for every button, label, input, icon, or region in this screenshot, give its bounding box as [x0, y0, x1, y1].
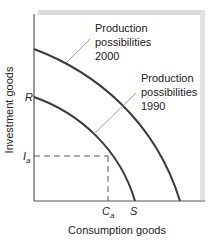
label-1990: Production possibilities 1990: [141, 72, 200, 112]
frame-top: [38, 10, 205, 15]
label-Ca: Ca: [102, 205, 115, 220]
label-2000: Production possibilities 2000: [95, 22, 154, 62]
label-S: S: [130, 205, 138, 217]
ppf-diagram: Production possibilities 2000 Production…: [0, 0, 210, 242]
y-axis-title: Investment goods: [3, 66, 15, 153]
label-R: R: [25, 91, 33, 103]
label-Ia: Ia: [23, 150, 31, 165]
ppf-curve-1990: [34, 97, 135, 201]
x-axis-title: Consumption goods: [68, 224, 166, 236]
frame-right: [200, 10, 205, 200]
leader-2000: [66, 39, 90, 63]
